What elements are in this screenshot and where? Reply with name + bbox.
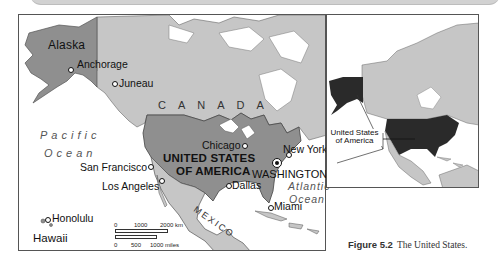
city-marker-juneau xyxy=(112,81,118,87)
city-label-juneau: Juneau xyxy=(119,78,153,89)
scale-bar-miles xyxy=(115,235,157,239)
city-label-anchorage: Anchorage xyxy=(77,59,128,70)
ocean-label-pacific-line2: Ocean xyxy=(44,148,96,159)
figure-caption: Figure 5.2The United States. xyxy=(348,239,467,250)
ocean-label-pacific-line1: Pacific xyxy=(40,130,100,141)
city-marker-san-francisco xyxy=(148,164,154,170)
scale-km-tick-1000: 1000 xyxy=(134,222,147,228)
figure-title: The United States. xyxy=(397,240,467,250)
inset-map xyxy=(326,14,479,188)
region-label-usa-line1: UNITED STATES xyxy=(163,153,255,165)
region-label-canada: CANADA xyxy=(158,100,276,111)
city-marker-anchorage xyxy=(68,67,74,73)
scale-bar-km xyxy=(115,229,168,233)
scale-mile-tick-500: 500 xyxy=(131,242,141,248)
region-label-hawaii: Hawaii xyxy=(33,233,68,245)
region-label-alaska: Alaska xyxy=(48,39,85,51)
city-marker-chicago xyxy=(242,143,248,149)
city-label-dallas: Dallas xyxy=(232,180,261,191)
city-label-san-francisco: San Francisco xyxy=(80,162,147,173)
city-label-miami: Miami xyxy=(274,201,302,212)
city-marker-new-york xyxy=(286,152,292,158)
capital-label-washington: WASHINGTON xyxy=(252,169,327,180)
page-curl-strip xyxy=(30,0,500,5)
region-label-usa-line2: OF AMERICA xyxy=(176,166,250,178)
capital-marker-washington xyxy=(272,158,282,168)
ocean-label-atlantic-line1: Atlantic xyxy=(288,181,330,192)
inset-label-usa-line2: of America xyxy=(327,137,382,145)
scale-km-tick-0: 0 xyxy=(114,222,117,228)
city-marker-honolulu xyxy=(45,217,51,223)
scale-km-tick-2000: 2000 km xyxy=(160,222,183,228)
city-label-los-angeles: Los Angeles xyxy=(102,181,159,192)
scale-mile-tick-0: 0 xyxy=(114,242,117,248)
inset-label-usa: United States of America xyxy=(327,129,382,146)
figure-number: Figure 5.2 xyxy=(348,239,393,250)
city-label-honolulu: Honolulu xyxy=(52,213,93,224)
city-label-chicago: Chicago xyxy=(202,140,241,151)
city-marker-los-angeles xyxy=(159,178,165,184)
inset-map-shapes xyxy=(327,15,479,188)
scale-mile-tick-1000: 1000 miles xyxy=(150,242,179,248)
